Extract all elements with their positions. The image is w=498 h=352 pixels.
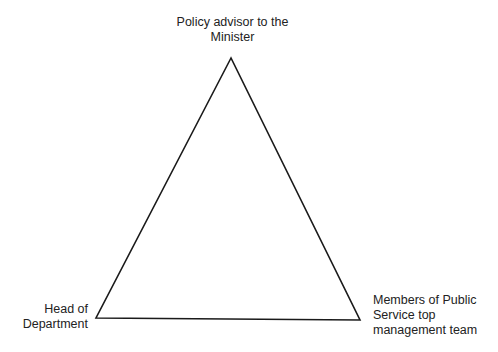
node-label-line: management team <box>373 323 498 338</box>
node-top-management-team: Members of Public Service top management… <box>373 293 498 338</box>
node-label-line: Department <box>0 317 88 332</box>
node-label-line: Policy advisor to the <box>160 15 305 30</box>
node-label-line: Head of <box>0 302 88 317</box>
node-label-line: Service top <box>373 308 498 323</box>
node-policy-advisor: Policy advisor to the Minister <box>160 15 305 45</box>
node-head-of-department: Head of Department <box>0 302 88 332</box>
node-label-line: Minister <box>160 30 305 45</box>
node-label-line: Members of Public <box>373 293 498 308</box>
role-triangle-diagram: Policy advisor to the Minister Head of D… <box>0 0 498 352</box>
